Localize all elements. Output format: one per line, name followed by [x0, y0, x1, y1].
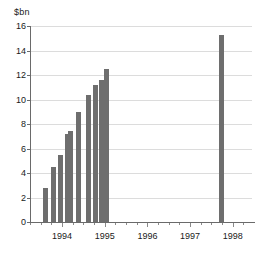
bar: [58, 155, 63, 222]
x-axis-tick-mark: [169, 223, 170, 225]
x-axis-tick-mark: [41, 223, 42, 225]
x-axis-tick-labels: 19941995199619971998: [30, 231, 258, 245]
x-axis-tick-mark: [243, 223, 244, 225]
x-axis-tick-mark: [158, 223, 159, 225]
x-axis-tick-label: 1994: [52, 231, 72, 241]
x-axis-tick-mark: [179, 223, 180, 225]
y-axis-line: [30, 26, 31, 223]
x-axis-tick-mark: [94, 223, 95, 225]
y-axis-tick-mark: [27, 100, 30, 101]
bar: [43, 188, 48, 222]
bar: [93, 85, 98, 222]
bar: [51, 167, 56, 222]
bar-chart: $bn 0246810121416 19941995199619971998: [0, 0, 270, 257]
x-axis-tick-label: 1995: [95, 231, 115, 241]
y-axis-tick-mark: [27, 124, 30, 125]
x-axis-tick-mark: [233, 223, 234, 227]
x-axis-tick-mark: [137, 223, 138, 225]
x-axis-tick-mark: [222, 223, 223, 225]
gridline: [30, 26, 252, 27]
y-axis-tick-mark: [27, 149, 30, 150]
x-axis-tick-label: 1997: [180, 231, 200, 241]
y-axis-tick-marks: [0, 26, 30, 223]
x-axis-tick-mark: [190, 223, 191, 227]
x-axis-tick-marks: [30, 223, 255, 227]
x-axis-tick-label: 1998: [223, 231, 243, 241]
y-axis-tick-mark: [27, 26, 30, 27]
bar: [219, 35, 224, 222]
x-axis-tick-mark: [30, 223, 31, 225]
bar: [104, 69, 109, 222]
y-axis-tick-mark: [27, 75, 30, 76]
bar: [76, 112, 81, 222]
x-axis-tick-mark: [126, 223, 127, 225]
x-axis-tick-mark: [115, 223, 116, 225]
x-axis-tick-mark: [147, 223, 148, 227]
y-axis-tick-mark: [27, 198, 30, 199]
bar: [68, 131, 73, 222]
x-axis-tick-label: 1996: [137, 231, 157, 241]
x-axis-tick-mark: [62, 223, 63, 227]
x-axis-tick-mark: [73, 223, 74, 225]
x-axis-tick-mark: [201, 223, 202, 225]
y-axis-tick-mark: [27, 173, 30, 174]
plot-area: [30, 26, 252, 222]
y-axis-tick-mark: [27, 51, 30, 52]
x-axis-tick-mark: [211, 223, 212, 225]
y-axis-unit-label: $bn: [14, 7, 30, 17]
x-axis-tick-mark: [83, 223, 84, 225]
x-axis-tick-mark: [105, 223, 106, 227]
bar: [86, 95, 91, 222]
x-axis-tick-mark: [51, 223, 52, 225]
